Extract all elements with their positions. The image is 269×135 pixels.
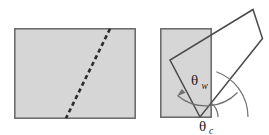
theta-c-subscript: c <box>209 126 214 135</box>
gray-square <box>161 29 211 117</box>
theta-w-symbol: θ <box>191 72 198 88</box>
figure-root: θ w θ c <box>0 0 269 134</box>
theta-c-symbol: θ <box>199 118 206 134</box>
outer-reference-arc <box>216 72 248 117</box>
gray-rectangle <box>15 29 135 118</box>
theta-c-label: θ c <box>199 118 214 134</box>
geometry-diagram: θ w θ c <box>0 0 269 134</box>
right-panel: θ w θ c <box>161 10 263 135</box>
left-panel <box>15 29 135 118</box>
theta-w-subscript: w <box>202 81 209 91</box>
